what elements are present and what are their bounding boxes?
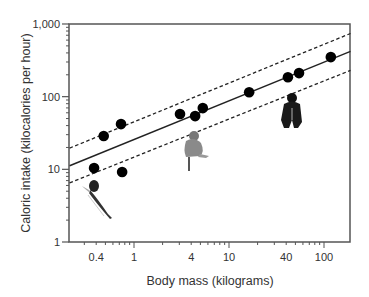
data-point <box>98 131 109 142</box>
data-point <box>190 111 201 122</box>
plot-frame <box>69 24 350 242</box>
chimpanzee-illustration <box>281 93 302 128</box>
data-point <box>89 163 100 174</box>
data-point <box>117 167 128 178</box>
x-tick-label: 40 <box>280 251 292 263</box>
data-point <box>116 119 127 130</box>
y-axis-title: Caloric intake (kilocalories per hour) <box>19 33 33 232</box>
x-tick-label: 0.4 <box>89 251 104 263</box>
data-point <box>283 72 294 83</box>
macaque-illustration <box>185 131 210 171</box>
data-point <box>175 109 186 120</box>
data-point <box>294 68 305 79</box>
y-tick-label: 10 <box>48 163 60 175</box>
regression-lines <box>70 33 351 182</box>
plot-border <box>69 24 350 242</box>
data-point <box>198 103 209 114</box>
small-primate-illustration <box>82 180 112 219</box>
x-axis-title: Body mass (kilograms) <box>146 274 273 288</box>
x-tick-label: 1 <box>131 251 137 263</box>
y-tick-label: 1 <box>54 236 60 248</box>
x-axis: 0.4141040100 <box>84 242 333 263</box>
x-tick-label: 100 <box>315 251 333 263</box>
x-tick-label: 10 <box>223 251 235 263</box>
confidence-line <box>70 33 351 148</box>
y-tick-label: 1,000 <box>32 18 60 30</box>
data-point <box>326 52 337 63</box>
y-tick-label: 100 <box>42 91 60 103</box>
regression-line <box>70 51 351 165</box>
confidence-line <box>70 70 351 183</box>
data-point <box>244 87 255 98</box>
x-tick-label: 4 <box>188 251 194 263</box>
y-axis: 1101001,000 <box>32 18 69 248</box>
scatter-chart: 1101001,000 0.4141040100 Body mass (kilo… <box>0 0 369 297</box>
